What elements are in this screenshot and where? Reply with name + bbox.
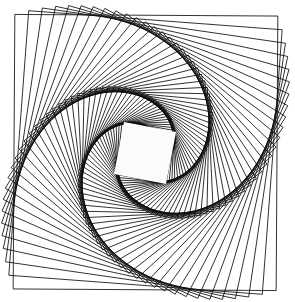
inner-white-square xyxy=(114,122,176,184)
spiral-figure-canvas xyxy=(0,0,295,302)
inner-square-shape xyxy=(114,122,176,184)
rotating-squares-spiral xyxy=(0,0,295,302)
